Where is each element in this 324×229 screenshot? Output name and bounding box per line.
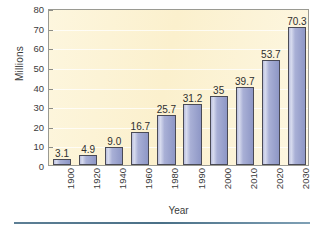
plot-area: 3.14.99.016.725.731.23539.753.770.3 [48, 9, 309, 166]
y-tick-label: 40 [33, 82, 44, 93]
y-tick-label: 20 [33, 121, 44, 132]
bar-value-label: 16.7 [131, 121, 150, 132]
bar-chart-figure: Millions 01020304050607080 3.14.99.016.7… [0, 0, 324, 229]
y-tick-label: 10 [33, 141, 44, 152]
bar-series: 3.14.99.016.725.731.23539.753.770.3 [49, 10, 308, 165]
bar-value-label: 31.2 [183, 93, 202, 104]
x-tick-label: 2030 [300, 168, 311, 189]
bar [236, 87, 254, 165]
x-axis-tick-labels: 1900192019401960198019902000201020202030 [48, 168, 309, 206]
x-tick-label: 1980 [169, 168, 180, 189]
x-axis-title: Year [48, 205, 309, 216]
x-tick-label: 2000 [222, 168, 233, 189]
bar [157, 115, 175, 165]
y-tick-label: 60 [33, 43, 44, 54]
bar-value-label: 70.3 [287, 16, 306, 27]
bar [131, 132, 149, 165]
x-tick-label: 1990 [196, 168, 207, 189]
y-tick-label: 30 [33, 102, 44, 113]
bar-value-label: 39.7 [235, 76, 254, 87]
bar [183, 104, 201, 165]
bar [262, 60, 280, 165]
bar-value-label: 35 [213, 85, 224, 96]
x-tick-label: 1920 [91, 168, 102, 189]
y-tick-label: 80 [33, 4, 44, 15]
x-tick-label: 1960 [143, 168, 154, 189]
bar-value-label: 25.7 [157, 104, 176, 115]
y-axis-title: Millions [14, 24, 25, 104]
y-tick-label: 0 [39, 161, 44, 172]
bar-value-label: 53.7 [261, 49, 280, 60]
bottom-divider-rule [14, 222, 310, 224]
x-tick-label: 2020 [274, 168, 285, 189]
bar-value-label: 3.1 [55, 148, 69, 159]
bar [105, 147, 123, 165]
y-tick-label: 50 [33, 62, 44, 73]
x-tick-label: 1900 [65, 168, 76, 189]
bar [288, 27, 306, 165]
x-tick-label: 2010 [248, 168, 259, 189]
bar-value-label: 4.9 [81, 144, 95, 155]
y-tick-label: 70 [33, 23, 44, 34]
bar-value-label: 9.0 [107, 136, 121, 147]
bar [210, 96, 228, 165]
bar [53, 159, 71, 165]
bar [79, 155, 97, 165]
y-axis-tick-labels: 01020304050607080 [24, 9, 44, 166]
x-tick-label: 1940 [117, 168, 128, 189]
